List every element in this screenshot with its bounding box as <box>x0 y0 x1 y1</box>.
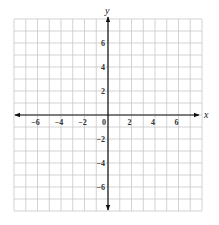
y-axis-label: y <box>104 5 110 16</box>
x-tick-label: 6 <box>175 118 179 127</box>
x-tick-label: 0 <box>102 118 106 127</box>
x-axis-label: x <box>203 109 209 120</box>
y-tick-label: 2 <box>101 87 105 96</box>
y-tick-label: −4 <box>96 159 105 168</box>
y-tick-label: −2 <box>96 135 105 144</box>
coordinate-plane: −6−4−20246 642−2−4−6 x y <box>0 0 219 225</box>
y-tick-label: 6 <box>101 39 105 48</box>
x-tick-label: 2 <box>128 118 132 127</box>
y-tick-label: 4 <box>101 63 105 72</box>
x-tick-label: −6 <box>31 118 40 127</box>
x-tick-label: −4 <box>55 118 64 127</box>
x-tick-label: −2 <box>78 118 87 127</box>
x-tick-labels: −6−4−20246 <box>31 118 178 127</box>
x-tick-label: 4 <box>151 118 155 127</box>
y-tick-label: −6 <box>96 183 105 192</box>
